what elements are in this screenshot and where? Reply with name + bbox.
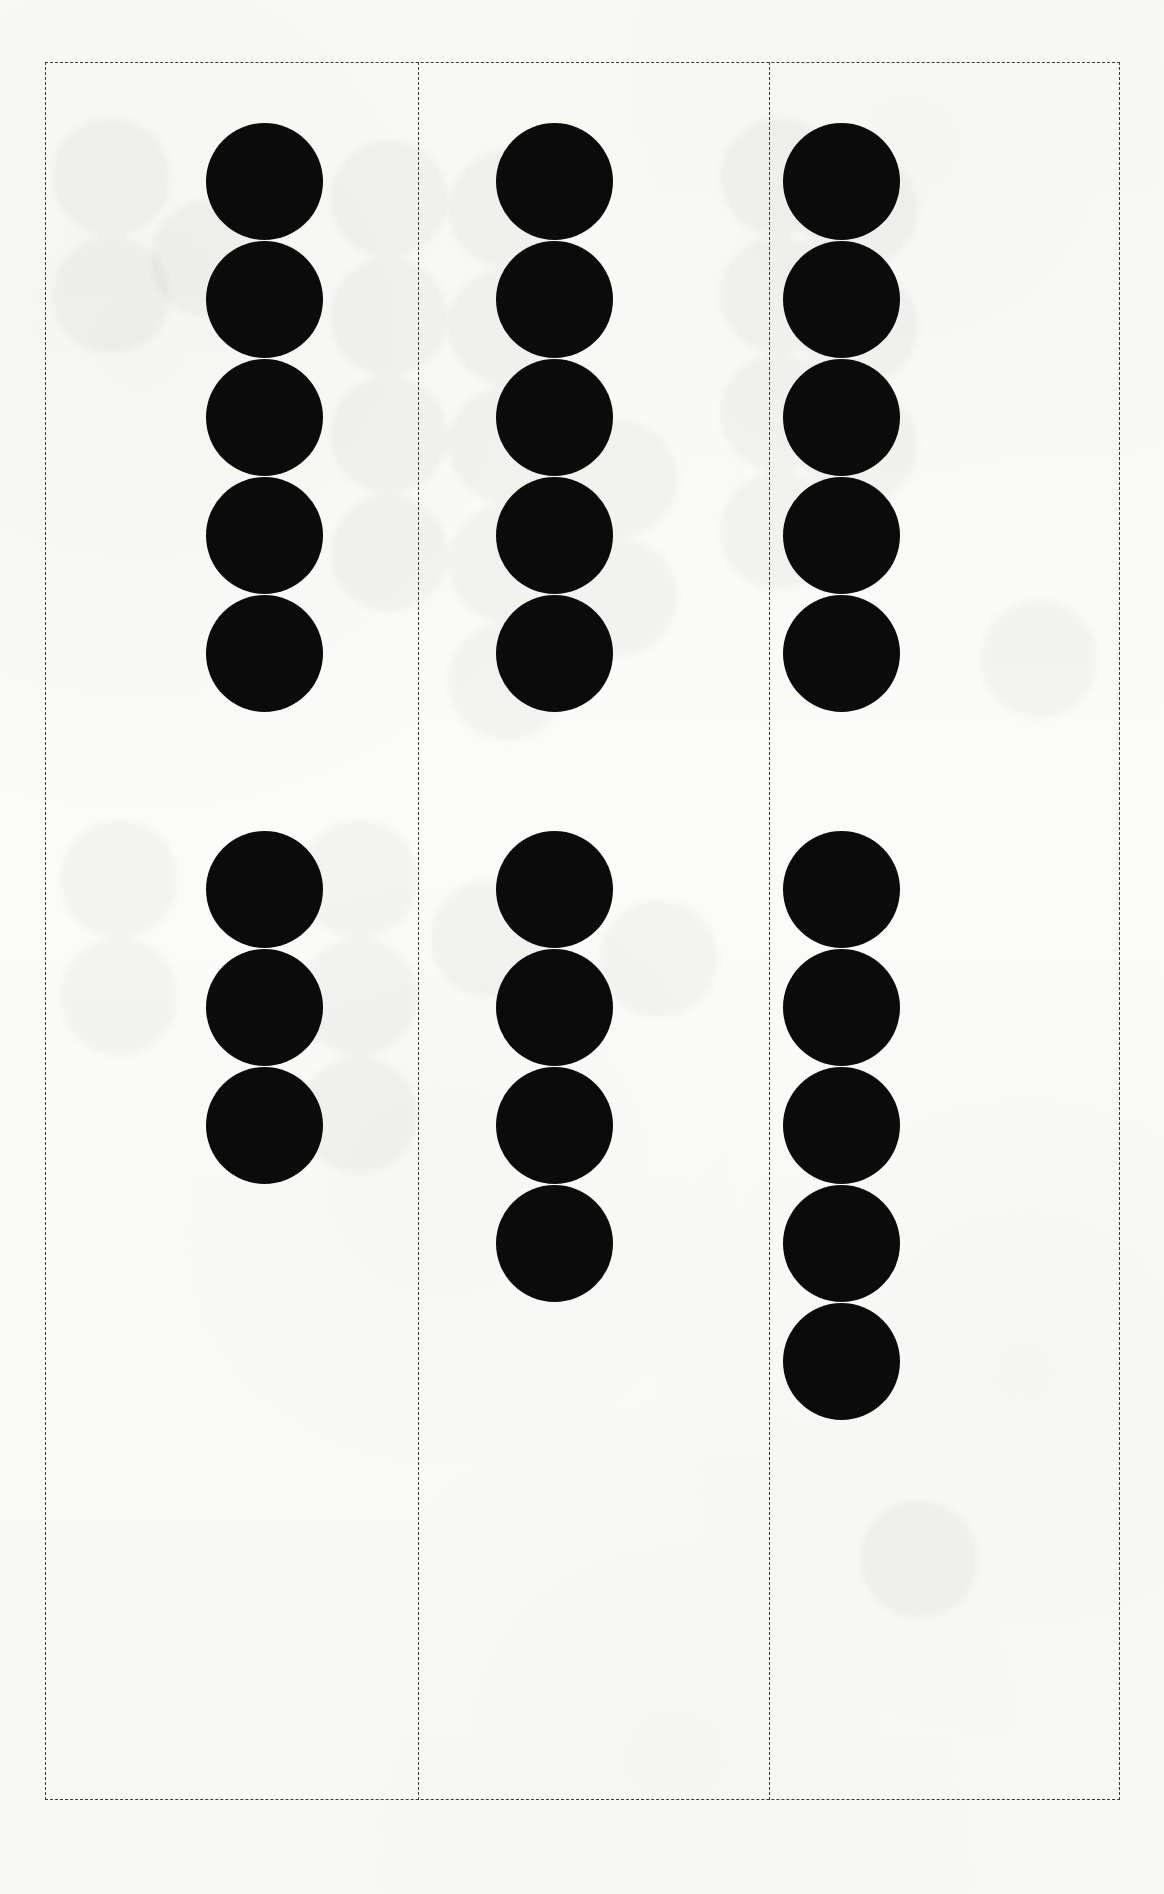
dot-marker xyxy=(206,123,323,240)
dot-marker xyxy=(206,595,323,712)
dot-marker xyxy=(206,949,323,1066)
dot-marker xyxy=(783,1185,900,1302)
dot-marker xyxy=(496,123,613,240)
dot-marker xyxy=(206,477,323,594)
divider-2 xyxy=(769,62,770,1800)
column-2-group-top xyxy=(496,123,613,713)
dot-marker xyxy=(496,477,613,594)
column-2-group-bottom xyxy=(496,831,613,1303)
worksheet-page xyxy=(0,0,1164,1894)
column-2 xyxy=(496,0,613,1894)
dot-marker xyxy=(206,1067,323,1184)
dot-marker xyxy=(496,1185,613,1302)
column-1-group-top xyxy=(206,123,323,713)
dot-marker xyxy=(496,241,613,358)
dot-marker xyxy=(783,241,900,358)
column-1 xyxy=(206,0,323,1894)
dot-marker xyxy=(783,831,900,948)
dot-marker xyxy=(783,477,900,594)
divider-1 xyxy=(418,62,419,1800)
dot-marker xyxy=(206,241,323,358)
dot-marker xyxy=(496,949,613,1066)
dot-marker xyxy=(206,359,323,476)
dot-marker xyxy=(783,595,900,712)
column-1-group-bottom xyxy=(206,831,323,1185)
dot-marker xyxy=(783,949,900,1066)
column-3-group-bottom xyxy=(783,831,900,1421)
dot-marker xyxy=(783,1067,900,1184)
column-3 xyxy=(783,0,900,1894)
dot-marker xyxy=(496,831,613,948)
dot-marker xyxy=(496,595,613,712)
dot-marker xyxy=(783,1303,900,1420)
dot-marker xyxy=(496,359,613,476)
dot-marker xyxy=(496,1067,613,1184)
dot-marker xyxy=(783,359,900,476)
dot-marker xyxy=(206,831,323,948)
column-3-group-top xyxy=(783,123,900,713)
dot-marker xyxy=(783,123,900,240)
